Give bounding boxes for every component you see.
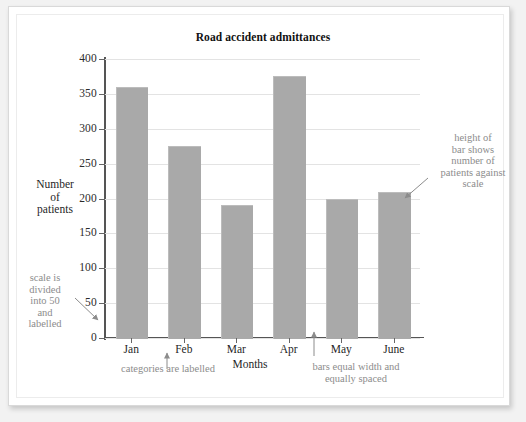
y-axis-tick — [99, 199, 105, 200]
y-axis-tick-label: 0 — [57, 331, 97, 343]
gridline — [105, 129, 420, 130]
x-axis-label-june: June — [364, 343, 424, 355]
y-axis-tick — [99, 233, 105, 234]
bars-annotation: bars equal width and equally spaced — [280, 361, 432, 384]
gridline — [105, 338, 420, 339]
scale-annotation-line-5: labelled — [6, 318, 84, 330]
y-axis-tick — [99, 268, 105, 269]
scale-annotation-line-1: scale is — [6, 272, 84, 284]
bar-height-annotation-line-1: height of — [424, 132, 522, 144]
bar-mar[interactable] — [221, 205, 254, 339]
scale-annotation-line-3: into 50 — [6, 295, 84, 307]
y-axis-tick-label: 400 — [57, 52, 97, 64]
y-axis-label-line-1: Number — [14, 178, 96, 191]
y-axis-tick-label: 300 — [57, 122, 97, 134]
scale-annotation: scale is divided into 50 and labelled — [6, 272, 84, 330]
bar-height-annotation-line-4: patients against — [424, 167, 522, 179]
bars-annotation-line-2: equally spaced — [280, 373, 432, 385]
x-axis-label-mar: Mar — [206, 343, 266, 355]
gridline — [105, 94, 420, 95]
y-axis-label-line-3: patients — [14, 203, 96, 216]
bars-annotation-arrow-icon — [307, 329, 321, 357]
scale-annotation-arrow-icon — [74, 296, 110, 332]
gridline — [105, 303, 420, 304]
chart-title: Road accident admittances — [0, 31, 526, 43]
y-axis-tick — [99, 129, 105, 130]
scale-annotation-line-4: and — [6, 307, 84, 319]
bar-height-annotation: height of bar shows number of patients a… — [424, 132, 522, 190]
bars-annotation-line-1: bars equal width and — [280, 361, 432, 373]
y-axis-tick-label: 200 — [57, 192, 97, 204]
y-axis-tick — [99, 338, 105, 339]
y-axis-tick — [99, 94, 105, 95]
bar-feb[interactable] — [168, 146, 201, 339]
y-axis-tick-label: 250 — [57, 157, 97, 169]
bar-apr[interactable] — [273, 76, 306, 339]
y-axis-tick — [99, 164, 105, 165]
bar-jan[interactable] — [116, 87, 149, 339]
bar-may[interactable] — [326, 199, 359, 340]
gridline — [105, 233, 420, 234]
y-axis-tick — [99, 59, 105, 60]
scale-annotation-line-2: divided — [6, 284, 84, 296]
bar-chart-figure: Road accident admittances Number of pati… — [0, 0, 526, 422]
y-axis-tick-label: 350 — [57, 87, 97, 99]
bar-height-annotation-line-2: bar shows — [424, 144, 522, 156]
bar-june[interactable] — [378, 192, 411, 339]
categories-annotation-arrow-icon — [160, 350, 174, 370]
gridline — [105, 268, 420, 269]
y-axis-tick-label: 150 — [57, 226, 97, 238]
bar-height-annotation-line-3: number of — [424, 155, 522, 167]
bar-height-annotation-line-5: scale — [424, 178, 522, 190]
page-canvas: Road accident admittances Number of pati… — [0, 0, 526, 422]
plot-area — [105, 59, 420, 338]
x-axis-label-jan: Jan — [101, 343, 161, 355]
gridline — [105, 164, 420, 165]
bar-height-annotation-arrow-icon — [402, 176, 434, 208]
gridline — [105, 59, 420, 60]
gridline — [105, 199, 420, 200]
